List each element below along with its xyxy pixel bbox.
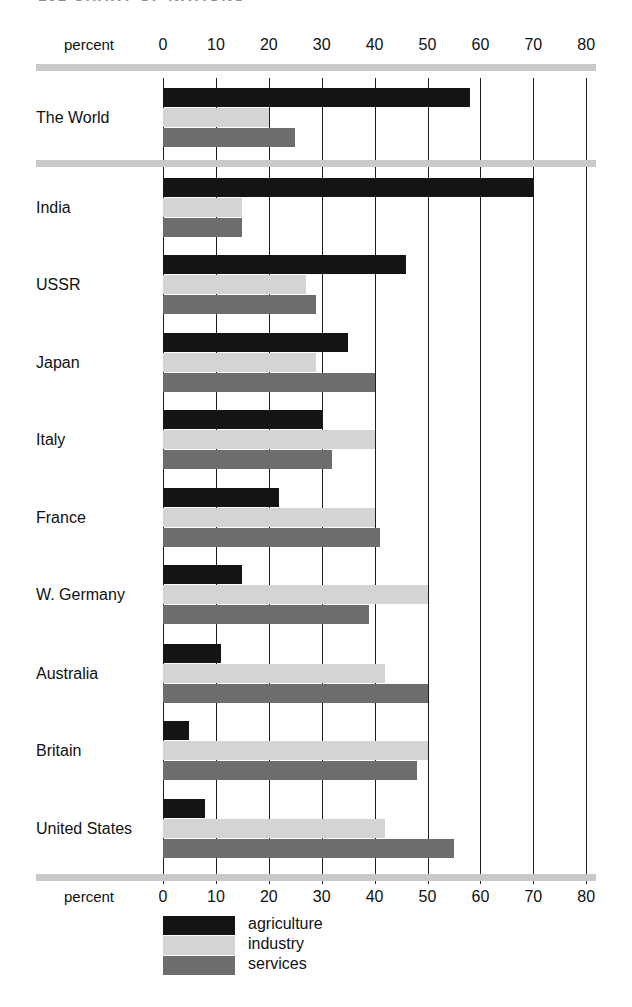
bar-group: United States — [0, 799, 632, 860]
legend-swatch-agriculture — [163, 916, 235, 935]
axis-tick-0: 0 — [159, 888, 168, 906]
axis-tick-70: 70 — [524, 36, 542, 54]
bar-group: Australia — [0, 644, 632, 705]
bar-industry — [163, 585, 428, 604]
bar-group: France — [0, 488, 632, 549]
legend-label-industry: industry — [248, 935, 304, 953]
bar-group: W. Germany — [0, 565, 632, 626]
category-label-japan: Japan — [36, 354, 80, 372]
axis-tick-0: 0 — [159, 36, 168, 54]
bar-services — [163, 761, 417, 780]
bar-agriculture — [163, 565, 242, 584]
bar-services — [163, 605, 369, 624]
category-label-united-states: United States — [36, 820, 132, 838]
bar-group: India — [0, 178, 632, 239]
category-label-w-germany: W. Germany — [36, 586, 125, 604]
axis-tick-20: 20 — [260, 888, 278, 906]
axis-tick-50: 50 — [419, 888, 437, 906]
axis-label-percent: percent — [64, 36, 114, 53]
bar-agriculture — [163, 410, 322, 429]
bar-services — [163, 839, 454, 858]
bar-industry — [163, 108, 269, 127]
axis-tick-80: 80 — [577, 888, 595, 906]
divider-top — [36, 64, 596, 71]
bar-agriculture — [163, 721, 189, 740]
bar-services — [163, 128, 295, 147]
bar-group: Japan — [0, 333, 632, 394]
bar-group: Britain — [0, 721, 632, 782]
bar-services — [163, 684, 428, 703]
bar-industry — [163, 275, 306, 294]
category-label-france: France — [36, 509, 86, 527]
category-label-ussr: USSR — [36, 276, 80, 294]
chart-legend: agricultureindustryservices — [0, 916, 632, 982]
bar-group: The World — [0, 88, 632, 149]
legend-label-services: services — [248, 955, 307, 973]
axis-tick-60: 60 — [471, 36, 489, 54]
bar-industry — [163, 508, 375, 527]
category-label-australia: Australia — [36, 665, 98, 683]
bar-industry — [163, 430, 375, 449]
bar-agriculture — [163, 488, 279, 507]
axis-tick-40: 40 — [366, 888, 384, 906]
bar-industry — [163, 198, 242, 217]
category-label-the-world: The World — [36, 109, 110, 127]
bar-services — [163, 450, 332, 469]
legend-swatch-services — [163, 956, 235, 975]
axis-tick-40: 40 — [366, 36, 384, 54]
plot-area: The WorldIndiaUSSRJapanItalyFranceW. Ger… — [0, 78, 632, 884]
bar-chart: percent01020304050607080 The WorldIndiaU… — [0, 0, 632, 1007]
bar-group: USSR — [0, 255, 632, 316]
bar-agriculture — [163, 799, 205, 818]
category-label-italy: Italy — [36, 431, 65, 449]
axis-tick-70: 70 — [524, 888, 542, 906]
axis-tick-20: 20 — [260, 36, 278, 54]
axis-tick-30: 30 — [313, 888, 331, 906]
bar-industry — [163, 819, 385, 838]
legend-swatch-industry — [163, 936, 235, 955]
divider-bottom — [36, 874, 596, 881]
bar-services — [163, 295, 316, 314]
bar-industry — [163, 664, 385, 683]
bar-agriculture — [163, 178, 533, 197]
axis-tick-30: 30 — [313, 36, 331, 54]
bar-services — [163, 218, 242, 237]
legend-label-agriculture: agriculture — [248, 915, 323, 933]
axis-tick-80: 80 — [577, 36, 595, 54]
axis-label-percent: percent — [64, 888, 114, 905]
axis-top: percent01020304050607080 — [0, 36, 632, 58]
category-label-india: India — [36, 199, 71, 217]
bar-agriculture — [163, 88, 470, 107]
category-label-britain: Britain — [36, 742, 81, 760]
bar-group: Italy — [0, 410, 632, 471]
axis-tick-10: 10 — [207, 36, 225, 54]
bar-industry — [163, 741, 428, 760]
bar-agriculture — [163, 333, 348, 352]
divider-world — [36, 160, 596, 167]
axis-tick-60: 60 — [471, 888, 489, 906]
bar-industry — [163, 353, 316, 372]
axis-tick-50: 50 — [419, 36, 437, 54]
bar-services — [163, 373, 375, 392]
bar-services — [163, 528, 380, 547]
bar-agriculture — [163, 255, 406, 274]
axis-bottom: percent01020304050607080 — [0, 888, 632, 910]
bar-agriculture — [163, 644, 221, 663]
axis-tick-10: 10 — [207, 888, 225, 906]
